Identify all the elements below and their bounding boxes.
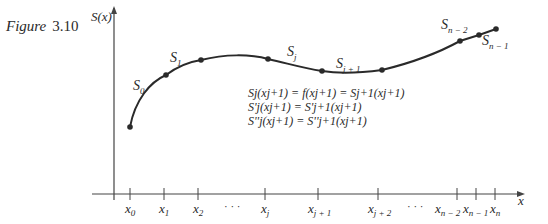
svg-text:· · ·: · · · [407,200,424,212]
segment-labels: S0 S1 Sj Sj + 1 Sn − 2 Sn − 1 [133,17,509,96]
tick-labels: x0 x1 x2 · · · xj xj + 1 xj + 2 · · · xn… [124,200,501,218]
y-axis-label: S(x) [91,9,112,24]
svg-text:xj + 1: xj + 1 [307,201,331,218]
svg-text:xn − 1: xn − 1 [462,201,488,218]
equation-second-derivative: S''j(xj+1) = S''j+1(xj+1) [248,114,367,129]
svg-text:xn − 2: xn − 2 [434,201,461,218]
svg-text:Sn − 2: Sn − 2 [441,17,468,35]
svg-text:S0: S0 [133,78,145,96]
svg-text:x2: x2 [192,201,204,218]
svg-text:xj + 2: xj + 2 [367,201,392,218]
x-axis-label: x [517,193,524,208]
svg-text:· · ·: · · · [224,200,241,212]
equation-continuity: Sj(xj+1) = f(xj+1) = Sj+1(xj+1) [248,86,405,101]
equation-first-derivative: S'j(xj+1) = S'j+1(xj+1) [248,100,362,115]
svg-text:x1: x1 [158,201,169,218]
svg-text:S1: S1 [170,50,182,68]
svg-text:Sj + 1: Sj + 1 [336,56,361,74]
svg-text:xj: xj [260,201,270,218]
svg-text:Sj: Sj [287,44,297,62]
svg-text:xn: xn [489,201,501,218]
svg-text:Sn − 1: Sn − 1 [482,33,509,51]
svg-text:x0: x0 [124,201,136,218]
